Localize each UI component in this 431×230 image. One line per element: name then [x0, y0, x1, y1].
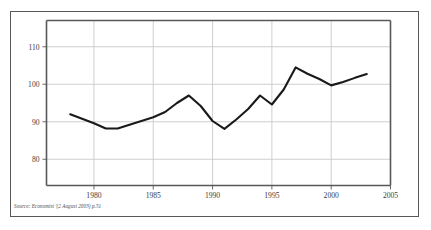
x-tick-label: 1995 — [264, 191, 279, 200]
y-tick-label: 110 — [28, 43, 39, 52]
x-tick-label: 1985 — [146, 191, 161, 200]
line-chart: 8090100110 198019851990199520002005 — [0, 0, 431, 230]
y-tick-label: 90 — [32, 118, 40, 127]
gridlines — [43, 21, 391, 190]
plot-frame — [47, 21, 391, 186]
x-tick-label: 1980 — [86, 191, 101, 200]
y-tick-label: 100 — [28, 80, 40, 89]
x-tick-label: 1990 — [205, 191, 220, 200]
series-line — [70, 67, 367, 129]
data-line-series — [70, 67, 367, 129]
chart-figure: 8090100110 198019851990199520002005 Sour… — [0, 0, 431, 230]
x-tick-label: 2005 — [383, 191, 398, 200]
source-note: Source: Economist '(2 August 2003) p.51 — [14, 203, 101, 209]
x-axis-tick-labels: 198019851990199520002005 — [86, 191, 398, 200]
y-tick-label: 80 — [32, 155, 40, 164]
x-tick-label: 2000 — [324, 191, 339, 200]
y-axis-tick-labels: 8090100110 — [28, 43, 40, 165]
